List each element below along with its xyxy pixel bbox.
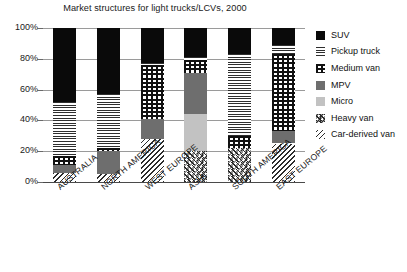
bar-segment-west-europe-pickup-truck[interactable] <box>141 63 164 65</box>
gridline-60 <box>43 90 305 91</box>
legend-item-mpv[interactable]: MPV <box>316 77 407 94</box>
bar-segment-asia-pickup-truck[interactable] <box>184 57 207 60</box>
legend-item-medium-van[interactable]: Medium van <box>316 60 407 77</box>
bar-south-america[interactable] <box>228 28 251 182</box>
gridline-20 <box>43 151 305 152</box>
legend-label-car-derived-van: Car-derived van <box>331 130 395 139</box>
bar-segment-east-europe-pickup-truck[interactable] <box>272 45 295 54</box>
y-axis-tick-80 <box>37 59 43 60</box>
bar-segment-australia-suv[interactable] <box>53 28 76 102</box>
legend-swatch-micro <box>316 97 325 106</box>
legend-label-pickup-truck: Pickup truck <box>331 47 380 56</box>
bar-segment-australia-pickup-truck[interactable] <box>53 102 76 156</box>
chart-legend: SUVPickup truckMedium vanMPVMicroHeavy v… <box>316 27 407 143</box>
legend-item-suv[interactable]: SUV <box>316 27 407 44</box>
y-axis-tick-0 <box>37 182 43 183</box>
gridline-100 <box>43 28 305 29</box>
legend-item-car-derived-van[interactable]: Car-derived van <box>316 127 407 144</box>
bar-segment-west-europe-suv[interactable] <box>141 28 164 63</box>
bar-segment-north-america-pickup-truck[interactable] <box>97 94 120 148</box>
legend-label-mpv: MPV <box>331 81 351 90</box>
bar-segment-south-america-suv[interactable] <box>228 28 251 54</box>
legend-item-micro[interactable]: Micro <box>316 93 407 110</box>
bar-segment-west-europe-mpv[interactable] <box>141 119 164 139</box>
x-axis-line <box>37 182 305 183</box>
legend-swatch-suv <box>316 31 325 40</box>
chart-container: Market structures for light trucks/LCVs,… <box>0 0 407 272</box>
y-axis-tick-20 <box>37 151 43 152</box>
legend-label-suv: SUV <box>331 31 350 40</box>
legend-swatch-pickup-truck <box>316 47 325 56</box>
legend-item-heavy-van[interactable]: Heavy van <box>316 110 407 127</box>
bar-australia[interactable] <box>53 28 76 182</box>
y-axis-label-60: 60% <box>2 85 38 94</box>
bar-north-america[interactable] <box>97 28 120 182</box>
y-axis-label-20: 20% <box>2 146 38 155</box>
bar-segment-south-america-medium-van[interactable] <box>228 136 251 148</box>
bar-segment-asia-suv[interactable] <box>184 28 207 57</box>
y-axis-label-0: 0% <box>2 177 38 186</box>
legend-swatch-heavy-van <box>316 114 325 123</box>
bar-segment-asia-mpv[interactable] <box>184 73 207 115</box>
legend-swatch-mpv <box>316 81 325 90</box>
legend-label-medium-van: Medium van <box>331 64 380 73</box>
legend-label-heavy-van: Heavy van <box>331 114 374 123</box>
legend-label-micro: Micro <box>331 97 353 106</box>
y-axis-tick-100 <box>37 28 43 29</box>
gridline-40 <box>43 120 305 121</box>
bar-segment-east-europe-medium-van[interactable] <box>272 54 295 131</box>
chart-title: Market structures for light trucks/LCVs,… <box>0 3 310 13</box>
legend-item-pickup-truck[interactable]: Pickup truck <box>316 44 407 61</box>
x-axis-labels: AUSTRALIANORTH AMERICAWEST EUROPEASIASOU… <box>43 184 305 272</box>
bar-segment-asia-medium-van[interactable] <box>184 60 207 72</box>
y-axis: 0%20%40%60%80%100% <box>0 28 38 182</box>
bar-segment-north-america-suv[interactable] <box>97 28 120 94</box>
y-axis-label-40: 40% <box>2 115 38 124</box>
legend-swatch-medium-van <box>316 64 325 73</box>
y-axis-label-80: 80% <box>2 54 38 63</box>
gridline-80 <box>43 59 305 60</box>
y-axis-tick-40 <box>37 120 43 121</box>
y-axis-tick-60 <box>37 90 43 91</box>
bar-segment-north-america-medium-van[interactable] <box>97 148 120 151</box>
bar-segment-australia-medium-van[interactable] <box>53 156 76 165</box>
bar-segment-west-europe-medium-van[interactable] <box>141 65 164 119</box>
bar-segment-south-america-pickup-truck[interactable] <box>228 54 251 136</box>
bar-segment-east-europe-suv[interactable] <box>272 28 295 45</box>
y-axis-label-100: 100% <box>2 23 38 32</box>
legend-swatch-car-derived-van <box>316 130 325 139</box>
